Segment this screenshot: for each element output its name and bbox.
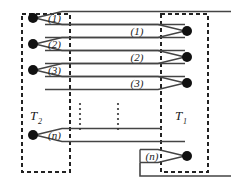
node-T2-channel-2 [28, 39, 38, 49]
label-terminal-T1-subscript: 1 [183, 117, 187, 126]
ellipsis-column-left [79, 103, 81, 130]
label-terminal-T2-letter: T [30, 108, 38, 123]
external-line-bottom-feedback [140, 163, 231, 177]
label-terminal-T1-letter: T [175, 108, 183, 123]
node-T1-channel-n [182, 151, 192, 161]
channel-1-right-arrow [45, 25, 192, 38]
signal-routing-diagram: (1) (2) (3) (n) (1) (2) (3) (n) T 2 T 1 [0, 0, 231, 188]
label-right-channel-n: (n) [146, 150, 159, 163]
label-terminal-T2-subscript: 2 [38, 117, 42, 126]
ellipsis-column-right [117, 103, 119, 130]
node-T2-channel-3 [28, 65, 38, 75]
node-T1-channel-3 [182, 78, 192, 88]
label-left-channel-3: (3) [48, 64, 61, 77]
node-T2-channel-1 [28, 13, 38, 23]
node-T1-channel-1 [182, 26, 192, 36]
label-right-channel-3: (3) [131, 77, 144, 90]
channel-3-right-arrow [45, 77, 192, 90]
node-T1-channel-2 [182, 52, 192, 62]
channel-2-right-arrow [45, 51, 192, 64]
label-left-channel-n: (n) [48, 129, 61, 142]
label-terminal-T1: T 1 [175, 108, 187, 126]
label-terminal-T2: T 2 [30, 108, 42, 126]
node-T2-channel-n [28, 130, 38, 140]
label-left-channel-1: (1) [48, 12, 61, 25]
label-left-channel-2: (2) [48, 38, 61, 51]
diagram-canvas: (1) (2) (3) (n) (1) (2) (3) (n) T 2 T 1 [0, 0, 231, 188]
label-right-channel-2: (2) [131, 51, 144, 64]
label-right-channel-1: (1) [131, 25, 144, 38]
